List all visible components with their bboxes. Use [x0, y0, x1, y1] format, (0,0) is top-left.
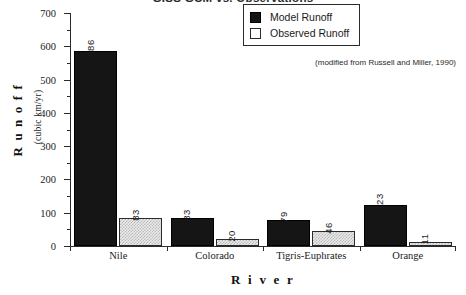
bar-observed-runoff: 46	[312, 231, 355, 246]
x-tick	[70, 246, 71, 251]
bar-model-runoff: 586	[74, 51, 117, 246]
x-tick	[167, 246, 168, 251]
legend-label-observed: Observed Runoff	[270, 27, 349, 39]
x-tick	[455, 246, 456, 251]
y-tick-minor	[67, 196, 70, 197]
chart-title: GISS GCM vs. Observations	[0, 0, 466, 4]
y-tick-minor	[67, 63, 70, 64]
y-tick-minor	[67, 30, 70, 31]
bar-value-label: 11	[419, 234, 430, 245]
x-category-label: Colorado	[195, 250, 234, 261]
y-tick-label: 500	[40, 74, 56, 85]
chart-attribution: (modified from Russell and Miller, 1990)	[315, 58, 456, 67]
legend-item-model: Model Runoff	[250, 9, 349, 25]
bar-value-label: 46	[323, 222, 334, 234]
legend-item-observed: Observed Runoff	[250, 25, 349, 41]
y-axis-title-group: R u n o f f (cubic km/yr)	[0, 60, 36, 220]
y-tick-minor	[67, 163, 70, 164]
y-tick-minor	[67, 96, 70, 97]
y-tick-label: 0	[51, 241, 56, 252]
y-tick-minor	[67, 229, 70, 230]
y-tick-major	[64, 213, 70, 214]
bar-value-label: 586	[85, 39, 96, 56]
y-tick-major	[64, 13, 70, 14]
y-tick-major	[64, 80, 70, 81]
bar-value-label: 20	[226, 231, 237, 243]
bar-value-label: 83	[130, 210, 141, 222]
bar-observed-runoff: 20	[216, 239, 259, 246]
y-axis-title: R u n o f f	[10, 80, 26, 160]
y-axis-line	[70, 13, 71, 247]
x-axis-title: R i v e r	[70, 272, 456, 288]
plot-area: 0100200300400500600700 58683832079461231…	[70, 13, 456, 247]
bar-model-runoff: 79	[267, 220, 310, 246]
bar-model-runoff: 83	[171, 218, 214, 246]
y-tick-minor	[67, 130, 70, 131]
y-tick-major	[64, 46, 70, 47]
y-tick-label: 300	[40, 141, 56, 152]
bar-observed-runoff: 11	[409, 242, 452, 246]
x-category-label: Nile	[109, 250, 127, 261]
y-tick-major	[64, 113, 70, 114]
bar-model-runoff: 123	[364, 205, 407, 246]
y-tick-major	[64, 179, 70, 180]
y-tick-label: 400	[40, 107, 56, 118]
bar-value-label: 123	[374, 193, 385, 210]
x-tick	[360, 246, 361, 251]
y-tick-label: 100	[40, 207, 56, 218]
x-category-label: Orange	[392, 250, 423, 261]
y-tick-label: 200	[40, 174, 56, 185]
chart-figure: GISS GCM vs. Observations R u n o f f (c…	[0, 0, 466, 295]
legend-swatch-model-icon	[250, 12, 261, 23]
x-category-label: Tigris-Euphrates	[276, 250, 346, 261]
y-tick-label: 700	[40, 8, 56, 19]
y-tick-label: 600	[40, 41, 56, 52]
bar-value-label: 79	[278, 211, 289, 223]
legend-swatch-observed-icon	[250, 28, 261, 39]
bar-value-label: 83	[181, 210, 192, 222]
y-tick-major	[64, 146, 70, 147]
bar-observed-runoff: 83	[119, 218, 162, 246]
chart-legend: Model Runoff Observed Runoff	[243, 4, 360, 46]
x-tick	[263, 246, 264, 251]
legend-label-model: Model Runoff	[270, 11, 332, 23]
